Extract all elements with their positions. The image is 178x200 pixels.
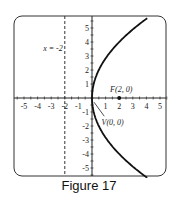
x-tick-label: 4 — [144, 102, 148, 111]
parabola-chart: -5-4-3-2-11234554321-1-2-3-4-5x = -2F(2,… — [0, 0, 178, 178]
y-tick-label: 3 — [85, 52, 89, 61]
x-tick-label: 2 — [117, 102, 121, 111]
y-tick-label: -4 — [82, 150, 89, 159]
x-tick-label: -3 — [48, 102, 55, 111]
y-tick-label: -3 — [82, 136, 89, 145]
chart-frame — [14, 16, 166, 176]
focus-label: F(2, 0) — [109, 85, 133, 94]
figure-caption: Figure 17 — [0, 178, 178, 193]
focus-point — [117, 96, 121, 100]
vertex-label: V(0, 0) — [102, 118, 125, 127]
x-tick-label: 1 — [104, 102, 108, 111]
directrix-label: x = -2 — [42, 44, 63, 53]
y-tick-label: -1 — [82, 108, 89, 117]
y-tick-label: 1 — [85, 80, 89, 89]
y-tick-label: 4 — [85, 38, 89, 47]
axes — [14, 16, 167, 178]
x-tick-label: -1 — [75, 102, 82, 111]
x-tick-label: 3 — [131, 102, 135, 111]
y-tick-label: 5 — [85, 24, 89, 33]
x-tick-label: -4 — [34, 102, 41, 111]
y-tick-label: -5 — [82, 164, 89, 173]
x-tick-label: -5 — [21, 102, 28, 111]
x-tick-label: -2 — [61, 102, 68, 111]
x-tick-label: 5 — [158, 102, 162, 111]
y-tick-label: -2 — [82, 122, 89, 131]
y-tick-label: 2 — [85, 66, 89, 75]
